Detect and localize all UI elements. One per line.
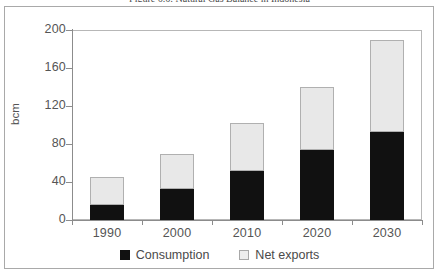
legend-label: Consumption [136, 248, 210, 262]
bar-segment-1990-consumption[interactable] [90, 205, 124, 220]
bar-segment-2030-consumption[interactable] [370, 132, 404, 220]
y-axis-line [72, 29, 73, 221]
x-tick-5 [422, 220, 423, 225]
x-tick-4 [352, 220, 353, 225]
legend-label: Net exports [255, 248, 319, 262]
x-tick-3 [282, 220, 283, 225]
x-axis-line [72, 220, 423, 221]
legend-item-net-exports[interactable]: Net exports [239, 248, 319, 262]
bar-segment-2020-consumption[interactable] [300, 150, 334, 220]
y-tick-label-0: 0 [22, 212, 66, 226]
bar-segment-2030-net-exports[interactable] [370, 40, 404, 131]
y-tick-160 [66, 68, 73, 69]
chart-legend: ConsumptionNet exports [0, 248, 439, 262]
x-tick-1 [142, 220, 143, 225]
y-tick-label-40: 40 [22, 174, 66, 188]
y-tick-40 [66, 182, 73, 183]
y-tick-200 [66, 30, 73, 31]
y-tick-label-80: 80 [22, 136, 66, 150]
y-tick-label-200: 200 [22, 22, 66, 36]
legend-swatch-netexports-icon [239, 250, 249, 260]
bar-segment-2000-net-exports[interactable] [160, 154, 194, 189]
bar-segment-2010-net-exports[interactable] [230, 123, 264, 171]
x-tick-0 [72, 220, 73, 225]
x-tick-label-2030: 2030 [352, 226, 422, 240]
x-tick-label-1990: 1990 [72, 226, 142, 240]
bar-segment-2010-consumption[interactable] [230, 171, 264, 220]
stacked-bar-chart: bcm 04080120160200 19902000201020202030 … [0, 0, 439, 275]
y-tick-label-160: 160 [22, 60, 66, 74]
x-tick-2 [212, 220, 213, 225]
bar-segment-2020-net-exports[interactable] [300, 87, 334, 150]
bar-segment-1990-net-exports[interactable] [90, 177, 124, 205]
y-axis-tick-labels: 04080120160200 [14, 0, 66, 230]
y-tick-label-120: 120 [22, 98, 66, 112]
y-tick-80 [66, 144, 73, 145]
x-tick-label-2020: 2020 [282, 226, 352, 240]
legend-item-consumption[interactable]: Consumption [120, 248, 210, 262]
x-tick-label-2000: 2000 [142, 226, 212, 240]
y-tick-120 [66, 106, 73, 107]
legend-swatch-consumption-icon [120, 250, 130, 260]
x-tick-label-2010: 2010 [212, 226, 282, 240]
bar-segment-2000-consumption[interactable] [160, 189, 194, 220]
